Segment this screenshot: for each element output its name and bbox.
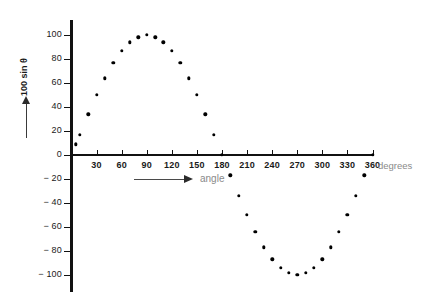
data-point [170, 49, 173, 52]
data-point [362, 174, 365, 177]
data-point [74, 142, 77, 145]
x-axis-title: angle [200, 173, 224, 184]
y-axis-tick-label: 20 [52, 125, 62, 135]
y-axis-tick-label: − 60 [43, 221, 62, 231]
data-point [153, 36, 156, 39]
y-axis-tick [64, 203, 71, 204]
data-point [229, 174, 232, 177]
x-axis-tick [247, 150, 248, 156]
data-point [112, 61, 115, 64]
x-axis-tick-label: 150 [189, 160, 205, 170]
y-axis-tick [64, 275, 71, 276]
y-axis-tick-label: − 80 [43, 245, 62, 255]
x-axis-unit-label: degrees [378, 160, 412, 171]
data-point [178, 61, 181, 64]
data-point [195, 93, 198, 96]
x-axis-tick-label: 270 [289, 160, 305, 170]
data-point [254, 230, 257, 233]
y-axis-tick [64, 251, 71, 252]
up-arrow-icon [22, 96, 30, 104]
y-axis-tick [64, 155, 71, 156]
x-axis-tick-label: 120 [164, 160, 180, 170]
data-point [187, 76, 190, 79]
sine-scatter-chart: 100806040200− 20− 40− 60− 80− 100 306090… [0, 0, 426, 304]
data-point [270, 258, 273, 261]
data-point [87, 112, 90, 115]
x-axis-tick [322, 150, 323, 156]
x-axis-tick-label: 60 [116, 160, 126, 170]
data-point [220, 153, 223, 156]
data-point [287, 271, 290, 274]
data-point [262, 246, 265, 249]
data-point [212, 133, 215, 136]
data-point [329, 246, 332, 249]
x-axis-tick-label: 330 [340, 160, 356, 170]
data-point [354, 194, 357, 197]
y-axis-tick-label: 60 [52, 77, 62, 87]
x-axis-tick-label: 300 [315, 160, 331, 170]
data-point [346, 213, 349, 216]
y-axis-title-group: 100 sin θ [12, 58, 34, 118]
y-axis-tick [64, 179, 71, 180]
data-point [237, 194, 240, 197]
y-axis-tick-label: 40 [52, 101, 62, 111]
data-point [145, 33, 148, 36]
y-axis-tick [64, 131, 71, 132]
data-point [103, 76, 106, 79]
y-axis-tick [64, 83, 71, 84]
data-point [312, 266, 315, 269]
data-point [337, 230, 340, 233]
x-axis-tick [272, 150, 273, 156]
x-axis-tick [97, 150, 98, 156]
y-axis-tick [64, 107, 71, 108]
y-axis-tick [64, 35, 71, 36]
x-axis-tick [172, 150, 173, 156]
x-axis-tick-label: 180 [214, 160, 230, 170]
x-axis-tick-label: 90 [142, 160, 152, 170]
data-point [78, 133, 81, 136]
y-axis-arrow-shaft [26, 100, 27, 138]
data-point [245, 213, 248, 216]
y-axis-tick-label: 0 [57, 149, 62, 159]
data-point [296, 273, 299, 276]
x-axis-tick [147, 150, 148, 156]
x-axis-tick-label: 30 [91, 160, 101, 170]
data-point [120, 49, 123, 52]
y-axis-tick-label: 100 [46, 29, 62, 39]
x-axis-tick [197, 150, 198, 156]
y-axis-tick-label: − 20 [43, 173, 62, 183]
data-point [137, 36, 140, 39]
right-arrow-icon [184, 175, 193, 183]
data-point [162, 40, 165, 43]
y-axis-tick-label: − 100 [38, 269, 62, 279]
data-point [95, 93, 98, 96]
y-axis-tick [64, 227, 71, 228]
y-axis-tick-label: − 40 [43, 197, 62, 207]
y-axis-tick [64, 59, 71, 60]
x-axis-tick [297, 150, 298, 156]
x-axis-tick-label: 240 [264, 160, 280, 170]
x-axis-tick [122, 150, 123, 156]
data-point [321, 258, 324, 261]
data-point [371, 153, 374, 156]
data-point [279, 266, 282, 269]
y-axis-tick-label: 80 [52, 53, 62, 63]
x-axis-tick-label: 210 [239, 160, 255, 170]
data-point [128, 40, 131, 43]
x-axis-arrow-shaft [134, 179, 186, 180]
data-point [304, 271, 307, 274]
x-axis-tick [347, 150, 348, 156]
data-point [204, 112, 207, 115]
